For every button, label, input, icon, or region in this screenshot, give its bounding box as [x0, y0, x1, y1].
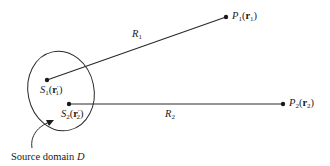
r1-line [47, 17, 226, 80]
p1-subscript: 1 [238, 15, 242, 23]
r1-label: R1 [132, 29, 142, 40]
p2-dot [281, 102, 285, 106]
r2-subscript: 2 [171, 113, 175, 121]
s1-dot [45, 78, 49, 82]
p1-dot [224, 15, 228, 19]
p1-label: P1(r1) [232, 11, 257, 22]
p2-vector-subscript: 2 [307, 102, 311, 110]
s1-vector-subscript: 1 [55, 89, 59, 97]
s2-vector-subscript: 2 [76, 113, 80, 121]
s1-label: S1(r′1) [40, 85, 62, 96]
source-domain-text: Source domain [11, 151, 74, 162]
source-domain-symbol: D [77, 151, 85, 162]
source-domain-diagram: R1 R2 P1(r1) P2(r2) S1(r′1) S2(r′2) Sour… [0, 0, 330, 166]
s2-subscript: 2 [66, 113, 70, 121]
s2-label: S2(r′2) [61, 109, 83, 120]
s2-dot [67, 102, 71, 106]
r1-subscript: 1 [138, 33, 142, 41]
p2-subscript: 2 [295, 102, 299, 110]
diagram-graphics [0, 0, 330, 166]
source-domain-caption: Source domain D [11, 152, 85, 163]
p1-vector-subscript: 1 [250, 15, 254, 23]
r2-label: R2 [165, 109, 175, 120]
p2-label: P2(r2) [289, 98, 314, 109]
s1-subscript: 1 [45, 89, 49, 97]
